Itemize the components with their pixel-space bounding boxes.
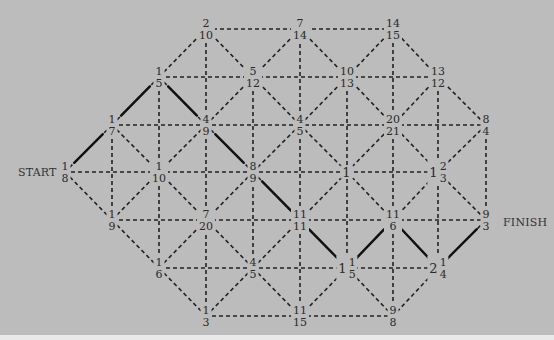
node-fraction: 1013	[340, 66, 354, 89]
node-fraction: 720	[199, 209, 213, 232]
node-denominator: 9	[250, 173, 257, 184]
node-denominator: 3	[203, 317, 210, 328]
solution-path-segment	[262, 181, 291, 210]
node-denominator: 7	[109, 126, 116, 137]
node-fraction: 13	[203, 305, 210, 328]
start-label: START	[18, 166, 57, 179]
lattice-node: 110	[150, 160, 168, 185]
lattice-node: 1312	[429, 65, 447, 90]
node-denominator: 5	[156, 78, 163, 89]
node-fraction: 18	[62, 161, 69, 184]
node-denominator: 5	[297, 126, 304, 137]
node-fraction: 14	[440, 257, 447, 280]
node-fraction: 1111	[293, 209, 307, 232]
lattice-node: 16	[154, 256, 165, 281]
solution-path-segment	[215, 134, 244, 163]
lattice-edge-diagonal	[112, 220, 159, 268]
node-fraction: 512	[246, 66, 260, 89]
node-fraction: 116	[386, 209, 400, 232]
lattice-node: 1	[340, 166, 353, 179]
node-whole: 1	[338, 263, 346, 274]
node-fraction: 17	[109, 114, 116, 137]
lattice-node: 1415	[384, 17, 402, 42]
node-fraction: 1415	[386, 18, 400, 41]
solution-path-segment	[447, 229, 477, 259]
node-fraction: 210	[199, 18, 213, 41]
lattice-node: 1115	[291, 304, 309, 329]
lattice-node: 89	[248, 160, 259, 185]
node-denominator: 12	[431, 78, 445, 89]
solution-path-segment	[121, 86, 150, 115]
lattice-node: 116	[384, 208, 402, 233]
node-fraction: 93	[483, 209, 490, 232]
node-fraction: 714	[293, 18, 307, 41]
node-denominator: 13	[340, 78, 354, 89]
lattice-node: 115	[336, 256, 357, 281]
node-denominator: 8	[62, 173, 69, 184]
solution-path-segment	[74, 134, 103, 163]
lattice-node: 84	[481, 113, 492, 138]
node-denominator: 21	[386, 126, 400, 137]
node-fraction: 89	[250, 161, 257, 184]
node-fraction: 98	[390, 305, 397, 328]
node-denominator: 20	[199, 221, 213, 232]
node-denominator: 4	[440, 269, 447, 280]
lattice-node: 45	[248, 256, 259, 281]
lattice-node: 512	[244, 65, 262, 90]
node-fraction: 2021	[386, 114, 400, 137]
lattice-node: 714	[291, 17, 309, 42]
solution-path-segment	[309, 229, 338, 258]
node-denominator: 10	[152, 173, 166, 184]
node-denominator: 15	[293, 317, 307, 328]
lattice-node: 1013	[338, 65, 356, 90]
lattice-node: 17	[107, 113, 118, 138]
lattice-edge-diagonal	[253, 125, 300, 172]
lattice-node: 98	[388, 304, 399, 329]
node-fraction: 19	[109, 209, 116, 232]
node-fraction: 15	[349, 257, 356, 280]
solution-path-segment	[168, 86, 197, 115]
node-fraction: 1115	[293, 305, 307, 328]
node-denominator: 15	[386, 30, 400, 41]
node-denominator: 3	[483, 221, 490, 232]
node-denominator: 10	[199, 30, 213, 41]
node-fraction: 84	[483, 114, 490, 137]
lattice-node: 93	[481, 208, 492, 233]
node-denominator: 8	[390, 317, 397, 328]
lattice-diagram: 2107141415155121013131217494520218418110…	[0, 0, 554, 340]
lattice-edge-diagonal	[159, 268, 206, 316]
node-whole: 2	[429, 263, 437, 274]
node-fraction: 16	[156, 257, 163, 280]
lattice-node: 18	[60, 160, 71, 185]
node-fraction: 15	[156, 66, 163, 89]
node-denominator: 9	[109, 221, 116, 232]
lattice-node: 15	[154, 65, 165, 90]
solution-path-segment	[402, 229, 429, 258]
node-fraction: 45	[250, 257, 257, 280]
node-denominator: 5	[349, 269, 356, 280]
lattice-node: 210	[197, 17, 215, 42]
node-fraction: 1312	[431, 66, 445, 89]
node-fraction: 110	[152, 161, 166, 184]
node-denominator: 6	[156, 269, 163, 280]
node-denominator: 14	[293, 30, 307, 41]
lattice-node: 45	[295, 113, 306, 138]
lattice-node: 49	[201, 113, 212, 138]
lattice-node: 1111	[291, 208, 309, 233]
node-denominator: 5	[250, 269, 257, 280]
node-denominator: 12	[246, 78, 260, 89]
node-whole: 1	[342, 167, 350, 178]
node-denominator: 6	[390, 221, 397, 232]
lattice-edge-diagonal	[206, 268, 253, 316]
lattice-node: 214	[427, 256, 448, 281]
lattice-node: 13	[201, 304, 212, 329]
lattice-edge-diagonal	[65, 172, 112, 220]
node-denominator: 9	[203, 126, 210, 137]
node-denominator: 3	[440, 173, 447, 184]
node-whole: 1	[429, 167, 437, 178]
node-denominator: 11	[293, 221, 307, 232]
lattice-node: 720	[197, 208, 215, 233]
node-denominator: 4	[483, 126, 490, 137]
finish-label: FINISH	[503, 216, 547, 229]
node-fraction: 23	[440, 161, 447, 184]
